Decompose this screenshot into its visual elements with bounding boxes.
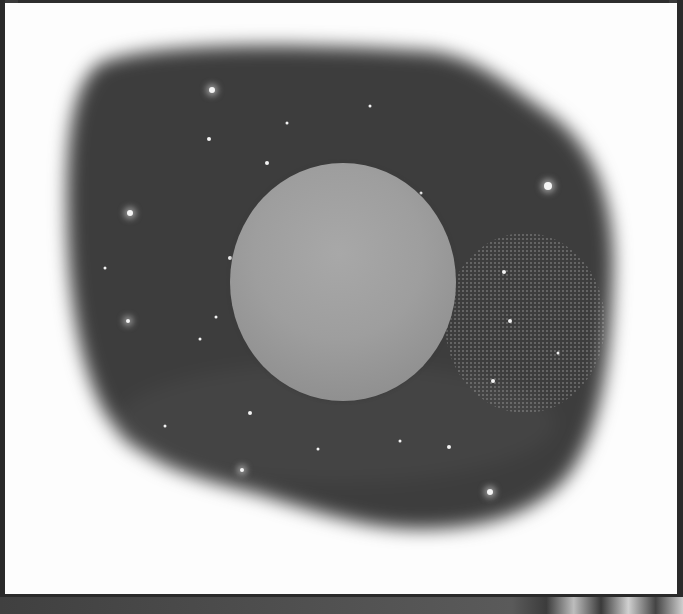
star-point bbox=[248, 411, 252, 415]
star-point bbox=[508, 319, 512, 323]
star-point bbox=[215, 316, 218, 319]
star-point bbox=[317, 448, 320, 451]
frame-right-border bbox=[677, 0, 683, 614]
star-point bbox=[164, 425, 167, 428]
star-point bbox=[199, 338, 202, 341]
star-point bbox=[369, 105, 372, 108]
star-point bbox=[104, 267, 107, 270]
star-point bbox=[487, 489, 493, 495]
star-point bbox=[557, 352, 560, 355]
star-point bbox=[127, 210, 133, 216]
star-point bbox=[209, 87, 215, 93]
planet-sphere bbox=[230, 163, 456, 401]
image-panel bbox=[5, 3, 677, 594]
star-point bbox=[399, 440, 402, 443]
star-point bbox=[502, 270, 506, 274]
star-point bbox=[286, 122, 289, 125]
star-point bbox=[447, 445, 451, 449]
star-point bbox=[207, 137, 211, 141]
frame-bottom-border bbox=[0, 594, 683, 597]
star-point bbox=[240, 468, 244, 472]
star-point bbox=[265, 161, 269, 165]
star-point bbox=[544, 182, 552, 190]
star-point bbox=[126, 319, 130, 323]
star-point bbox=[491, 379, 495, 383]
bottom-background-strip bbox=[0, 594, 683, 614]
